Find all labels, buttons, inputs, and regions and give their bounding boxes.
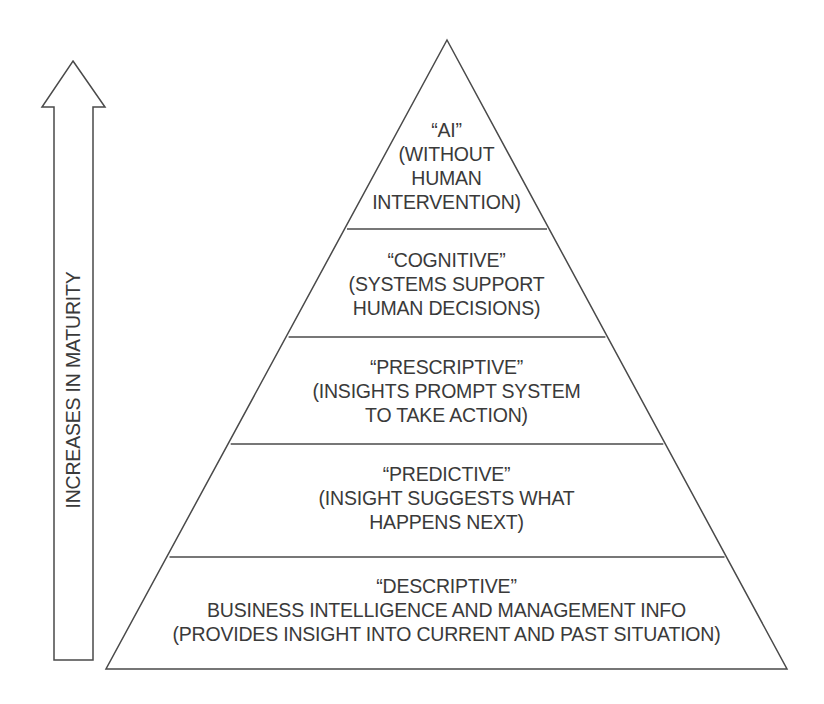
tier-line: TO TAKE ACTION) (106, 403, 787, 427)
tier-prescriptive: “PRESCRIPTIVE” (INSIGHTS PROMPT SYSTEM T… (106, 355, 787, 427)
maturity-arrow-label: INCREASES IN MATURITY (62, 271, 85, 508)
tier-line: (SYSTEMS SUPPORT (106, 272, 787, 296)
tier-predictive: “PREDICTIVE” (INSIGHT SUGGESTS WHAT HAPP… (106, 462, 787, 534)
tier-line: (WITHOUT (106, 142, 787, 166)
tier-line: (INSIGHT SUGGESTS WHAT (106, 486, 787, 510)
tier-line: HUMAN (106, 166, 787, 190)
tier-title: “PREDICTIVE” (106, 462, 787, 486)
tier-ai: “AI” (WITHOUT HUMAN INTERVENTION) (106, 118, 787, 214)
tier-line: (PROVIDES INSIGHT INTO CURRENT AND PAST … (106, 622, 787, 646)
tier-title: “AI” (106, 118, 787, 142)
tier-line: INTERVENTION) (106, 190, 787, 214)
tier-title: “COGNITIVE” (106, 248, 787, 272)
tier-title: “PRESCRIPTIVE” (106, 355, 787, 379)
tier-line: BUSINESS INTELLIGENCE AND MANAGEMENT INF… (106, 598, 787, 622)
tier-descriptive: “DESCRIPTIVE” BUSINESS INTELLIGENCE AND … (106, 574, 787, 646)
tier-line: HAPPENS NEXT) (106, 510, 787, 534)
tier-title: “DESCRIPTIVE” (106, 574, 787, 598)
tier-line: HUMAN DECISIONS) (106, 296, 787, 320)
tier-line: (INSIGHTS PROMPT SYSTEM (106, 379, 787, 403)
tier-cognitive: “COGNITIVE” (SYSTEMS SUPPORT HUMAN DECIS… (106, 248, 787, 320)
